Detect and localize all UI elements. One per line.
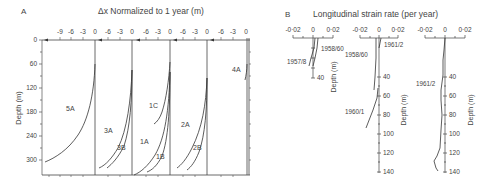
xtick: -6 (143, 28, 149, 35)
label-2A: 2A (181, 121, 190, 128)
panel-a-zero-lines (95, 38, 249, 175)
curve-1A (134, 72, 170, 175)
xtick: 0 (244, 28, 248, 35)
label-1961-2-c: 1961/2 (416, 80, 436, 87)
ytick: 180 (26, 108, 37, 115)
xtick: -3 (117, 28, 123, 35)
curve-1961-2-c (434, 38, 445, 171)
label-2B: 2B (193, 144, 202, 151)
panel-b3-y-ticks: 40 60 80 100 120 140 (449, 73, 460, 175)
curve-3B (107, 70, 132, 168)
xtick: -6 (180, 28, 186, 35)
ytick: 60 (449, 92, 457, 99)
panel-a-y-ticks: 0 60 120 180 240 300 (26, 36, 37, 163)
ytick: 140 (383, 168, 394, 175)
label-1958-60-b: 1958/60 (345, 51, 368, 58)
ytick: 100 (449, 130, 460, 137)
ytick: 40 (383, 73, 391, 80)
panel-a-y-axis (39, 40, 42, 175)
ytick: 300 (26, 156, 37, 163)
label-1B: 1B (156, 153, 165, 160)
label-1961-2: 1961/2 (384, 41, 404, 48)
panel-a-top-ticks (60, 37, 233, 40)
xtick: -3 (192, 28, 198, 35)
panel-b1-y-label: Depth (m) (330, 61, 338, 92)
label-1A: 1A (140, 138, 149, 145)
xtick: -3 (230, 28, 236, 35)
panel-a-x-ticks: -9 -6 -3 0 -6 -3 0 -6 -3 0 -6 -3 0 -6 -3… (57, 28, 248, 35)
label-4A: 4A (232, 66, 241, 73)
panel-b2-y-label: Depth (m) (400, 94, 408, 125)
ytick: 120 (26, 84, 37, 91)
panel-a-title: Δx Normalized to 1 year (m) (98, 6, 204, 16)
panel-a-y-label: Depth (m) (14, 91, 23, 125)
panel-b-title: Longitudinal strain rate (per year) (313, 9, 438, 19)
curve-2B (187, 78, 207, 170)
xtick: -6 (218, 28, 224, 35)
panel-b-letter: B (285, 10, 290, 19)
ytick: 120 (383, 149, 394, 156)
curve-1958-60 (313, 38, 318, 66)
xtick: 0·02 (326, 26, 339, 33)
ytick: 40 (449, 73, 457, 80)
xtick: -0·02 (417, 26, 433, 33)
curve-5A (45, 64, 95, 162)
ytick: 0 (33, 36, 37, 43)
curve-1960-1 (366, 88, 378, 128)
curve-1958-60-b (374, 38, 376, 90)
xtick: 0 (377, 26, 381, 33)
xtick: -3 (155, 28, 161, 35)
label-1958-60: 1958/60 (321, 45, 344, 52)
xtick: 0 (205, 28, 209, 35)
label-3A: 3A (104, 127, 113, 134)
panel-b2-labels: 1961/2 1958/60 1960/1 (345, 41, 404, 115)
xtick: 0 (168, 28, 172, 35)
panel-a-series-labels: 5A 3A 3B 1C 1A 1B 2A 2B 4A (66, 66, 241, 160)
xtick: -6 (68, 28, 74, 35)
xtick: 0 (443, 26, 447, 33)
xtick: -0·02 (285, 26, 301, 33)
ytick: 80 (383, 111, 391, 118)
xtick: -6 (105, 28, 111, 35)
xtick: 0 (130, 28, 134, 35)
panel-b2-y-ticks: 40 60 80 100 120 140 (383, 73, 394, 175)
ytick: 60 (30, 60, 38, 67)
panel-b2-x-ticks: -0·02 0 0·02 (352, 26, 404, 33)
xtick: -9 (57, 28, 63, 35)
xtick: -0·02 (352, 26, 368, 33)
ytick: 60 (383, 92, 391, 99)
ytick: 140 (449, 168, 460, 175)
xtick: 0·02 (458, 26, 471, 33)
ytick: 100 (383, 130, 394, 137)
xtick: -3 (80, 28, 86, 35)
ytick: 240 (26, 132, 37, 139)
xtick: 0 (93, 28, 97, 35)
panel-b3-y-label: Depth (m) (467, 94, 475, 125)
panel-b1-ytick: 40 (317, 74, 325, 81)
panel-b1-axes (293, 35, 333, 78)
panel-b3-curves (434, 38, 445, 171)
xtick: 0·02 (391, 26, 404, 33)
xtick: 0 (311, 26, 315, 33)
label-1960-1: 1960/1 (345, 108, 365, 115)
label-1957-8: 1957/8 (287, 58, 307, 65)
label-5A: 5A (66, 105, 75, 112)
panel-a-curves (45, 62, 247, 175)
label-1C: 1C (149, 102, 158, 109)
panel-a-letter: A (21, 7, 27, 16)
panel-b1-x-ticks: -0·02 0 0·02 (285, 26, 339, 33)
figure: A Δx Normalized to 1 year (m) 0 60 120 1… (0, 0, 478, 184)
panel-b1-curves (309, 38, 318, 66)
label-3B: 3B (117, 144, 126, 151)
curve-3A (99, 70, 132, 168)
curve-1C (154, 62, 170, 124)
ytick: 80 (449, 111, 457, 118)
panel-b3-x-ticks: -0·02 0 0·02 (417, 26, 471, 33)
ytick: 120 (449, 149, 460, 156)
